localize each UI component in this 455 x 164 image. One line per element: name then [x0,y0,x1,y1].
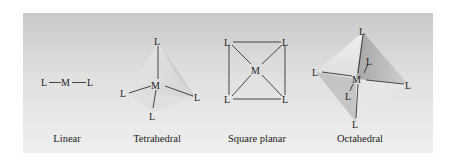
ligand-label: L [405,80,411,91]
ligand-label: L [120,88,126,99]
ligand-label: L [154,36,160,47]
ligand-label: L [224,94,230,105]
ligand-label: L [312,67,318,78]
ligand-label: L [41,77,47,88]
ligand-label: L [282,94,288,105]
ligand-label: L [282,37,288,48]
square-planar-geometry: L L M L L Square planar [224,37,288,144]
ligand-label: L [149,111,155,122]
ligand-label: L [359,26,365,37]
caption-tetrahedral: Tetrahedral [133,133,181,144]
ligand-label: L [87,77,93,88]
ligand-label: L [224,37,230,48]
octahedral-geometry: L L L M L L L Octahedral [312,26,411,144]
metal-label: M [251,65,260,76]
ligand-label: L [366,56,372,67]
ligand-label: L [194,92,200,103]
metal-label: M [61,77,70,88]
linear-geometry: L M L Linear [41,77,93,144]
ligand-label: L [352,119,358,130]
tetrahedral-geometry: L M L L L Tetrahedral [120,36,200,144]
caption-octahedral: Octahedral [337,133,383,144]
metal-label: M [151,80,160,91]
caption-square-planar: Square planar [228,133,287,144]
ligand-label: L [345,91,351,102]
metal-label: M [352,74,361,85]
geometry-diagram: L M L Linear L M L L L Tetrahedral L L M… [0,0,455,164]
caption-linear: Linear [53,133,81,144]
